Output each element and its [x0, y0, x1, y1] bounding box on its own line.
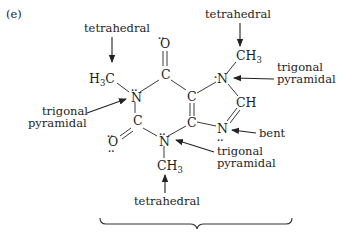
label-bent: bent — [259, 126, 286, 140]
atom-ch: CH — [236, 95, 257, 110]
atom-methyl-left: H3C — [89, 71, 115, 88]
arrow-right-icon — [234, 78, 274, 79]
atom-n-right-top: N — [217, 71, 228, 86]
arrow-left-icon — [87, 99, 126, 113]
lone-pair-o-top: .. — [158, 31, 164, 41]
panel-label: (e) — [6, 7, 22, 21]
atom-c-left: C — [133, 113, 143, 128]
atom-methyl-right: CH3 — [236, 48, 262, 65]
atom-c-top: C — [161, 67, 171, 82]
bottom-brace — [100, 218, 292, 229]
lone-pair-n1: .. — [131, 83, 137, 93]
annotations: tetrahedral tetrahedral trigonal pyramid… — [28, 7, 336, 208]
label-tetrahedral-top-right: tetrahedral — [205, 7, 271, 21]
svg-text:..: .. — [108, 144, 114, 154]
lone-pair-n-right-top: . — [214, 70, 217, 80]
label-trigonal-bottom-right-2: pyramidal — [217, 156, 276, 170]
arrow-bottom-right-icon — [176, 140, 214, 152]
arrow-bent-icon — [232, 130, 256, 133]
label-tetrahedral-top-left: tetrahedral — [84, 21, 150, 35]
label-trigonal-right-2: pyramidal — [277, 72, 336, 86]
caffeine-geometry-diagram: (e) — [0, 0, 341, 234]
lone-pair-n-right-bottom: .. — [217, 133, 223, 143]
atom-methyl-bottom: CH3 — [157, 158, 183, 175]
atom-c-center-bottom: C — [187, 115, 197, 130]
atom-c-center-top: C — [187, 89, 197, 104]
lone-pair-n-bottom: .. — [159, 127, 165, 137]
lone-pair-o-left: .. — [107, 129, 113, 139]
label-trigonal-left-2: pyramidal — [28, 116, 87, 130]
label-tetrahedral-bottom: tetrahedral — [134, 194, 200, 208]
